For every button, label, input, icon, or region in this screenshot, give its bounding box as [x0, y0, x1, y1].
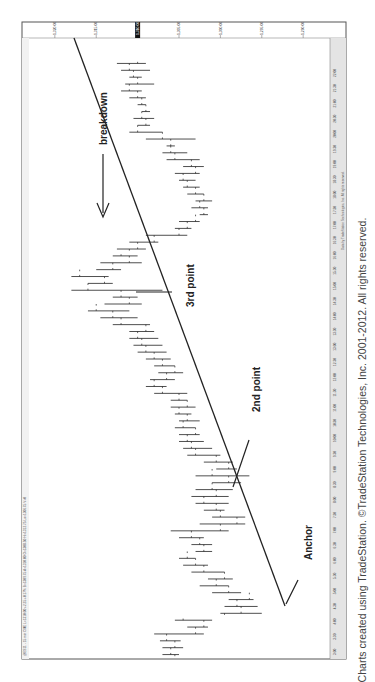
time-tick-label: 5:00: [333, 588, 337, 594]
time-tick-label: 13:30: [333, 327, 337, 335]
time-tick-label: 14:00: [333, 312, 337, 320]
price-tick-label: 1,315.00: [94, 22, 98, 35]
time-tick-label: 7:00: [333, 527, 337, 533]
time-tick-label: 18:30: [333, 175, 337, 183]
time-tick-label: 11:30: [333, 388, 337, 396]
time-tick-label: 6:00: [333, 557, 337, 563]
price-tick-label: 1,300.00: [219, 22, 223, 35]
time-tick-label: 12:00: [333, 373, 337, 381]
time-tick-label: 8:30: [333, 481, 337, 487]
chart-frame: [22, 22, 346, 659]
time-tick-label: 4:00: [333, 618, 337, 624]
chart-header-text: @ES11 - 15 min CME L=1310.00 +2.25 +0.17…: [23, 497, 27, 656]
time-tick-label: 13:00: [333, 343, 337, 351]
time-tick-label: 8:00: [333, 496, 337, 502]
time-tick-label: 3:00: [333, 649, 337, 655]
time-tick-label: 16:30: [333, 236, 337, 244]
time-tick-label: 22:00: [333, 69, 337, 77]
time-tick-label: 7:30: [333, 512, 337, 518]
time-tick-label: 4:30: [333, 603, 337, 609]
time-tick-label: 19:30: [333, 145, 337, 153]
time-tick-label: 15:30: [333, 267, 337, 275]
time-tick-label: 15:00: [333, 282, 337, 290]
time-tick-label: 12:30: [333, 358, 337, 366]
price-tick-label: 1,320.00: [53, 22, 57, 35]
time-tick-label: 17:00: [333, 221, 337, 229]
time-tick-label: 16:00: [333, 251, 337, 259]
time-tick-label: 6:30: [333, 542, 337, 548]
time-tick-label: 20:30: [333, 114, 337, 122]
time-tick-label: 14:30: [333, 297, 337, 305]
annotation-3rd-point: 3rd point: [185, 264, 196, 307]
price-tick-label: 1,295.00: [260, 22, 264, 35]
time-tick-label: 19:00: [333, 160, 337, 168]
time-tick-label: 10:30: [333, 419, 337, 427]
annotation-2nd-point: 2nd point: [251, 366, 262, 412]
time-tick-label: 18:00: [333, 190, 337, 198]
time-tick-label: 17:30: [333, 206, 337, 214]
chart-caption: Charts created using TradeStation. ©Trad…: [356, 218, 368, 682]
price-tick-label: 1,305.00: [177, 22, 181, 35]
time-tick-label: 10:00: [333, 434, 337, 442]
time-tick-label: 3:30: [333, 633, 337, 639]
time-tick-label: 21:00: [333, 99, 337, 107]
price-tick-label: 1,290.00: [301, 22, 305, 35]
time-tick-label: 9:00: [333, 466, 337, 472]
time-tick-label: 20:00: [333, 130, 337, 138]
chart-footer-text: Data by TradeStation Technologies, Inc. …: [341, 171, 345, 250]
annotation-breakdown: breakdown: [98, 92, 109, 145]
time-tick-label: 9:30: [333, 451, 337, 457]
time-tick-label: 21:30: [333, 84, 337, 92]
time-tick-label: 5:30: [333, 573, 337, 579]
time-tick-label: 11:00: [333, 404, 337, 412]
last-price-label: 1,310.00: [136, 22, 140, 35]
annotation-anchor: Anchor: [303, 525, 314, 560]
